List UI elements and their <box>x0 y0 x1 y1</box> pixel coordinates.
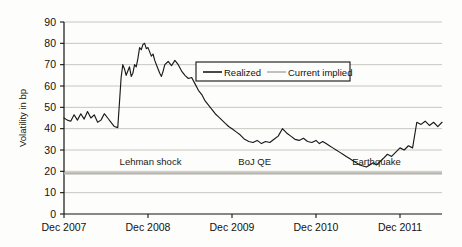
x-tick-label-4: Dec 2011 <box>378 221 422 233</box>
y-tick-label-40: 40 <box>44 122 56 134</box>
annotation-lehman: Lehman shock <box>120 156 182 167</box>
y-tick-label-90: 90 <box>44 16 56 28</box>
annotation-group: Lehman shockBoJ QEEarthquake <box>120 156 401 167</box>
y-tick-label-20: 20 <box>44 165 56 177</box>
y-tick-label-80: 80 <box>44 37 56 49</box>
annotation-earthquake: Earthquake <box>352 156 401 167</box>
y-tick-label-30: 30 <box>44 144 56 156</box>
x-tick-label-3: Dec 2010 <box>294 221 339 233</box>
y-tick-label-70: 70 <box>44 58 56 70</box>
legend-label-realized: Realized <box>224 67 261 78</box>
annotation-boj: BoJ QE <box>238 156 271 167</box>
y-axis-title: Volatility in bp <box>17 89 28 147</box>
chart-figure: 0102030405060708090 Dec 2007Dec 2008Dec … <box>0 0 462 247</box>
y-tick-label-60: 60 <box>44 80 56 92</box>
x-tick-label-2: Dec 2009 <box>210 221 255 233</box>
x-tick-label-1: Dec 2008 <box>126 221 171 233</box>
volatility-line-chart: 0102030405060708090 Dec 2007Dec 2008Dec … <box>0 0 462 247</box>
chart-legend: Realized Current implied <box>196 62 352 81</box>
x-tick-label-0: Dec 2007 <box>42 221 87 233</box>
legend-label-current-implied: Current implied <box>288 67 352 78</box>
y-tick-label-10: 10 <box>44 186 56 198</box>
chart-background <box>0 0 462 247</box>
y-tick-label-50: 50 <box>44 101 56 113</box>
y-tick-label-0: 0 <box>50 208 56 220</box>
